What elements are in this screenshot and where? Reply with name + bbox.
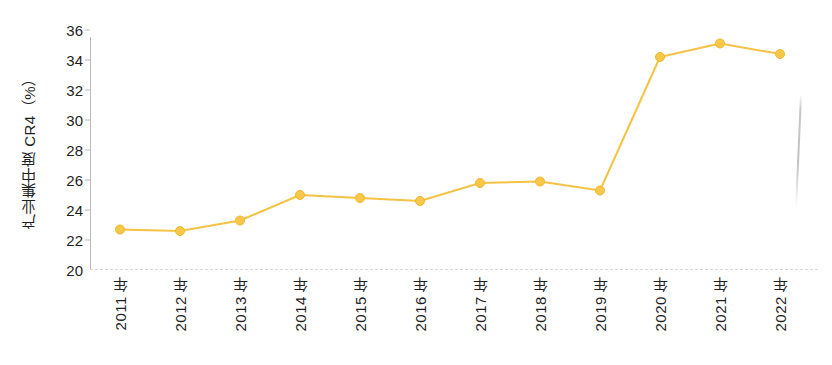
data-point-marker: 2019 年: 25.3 <box>596 186 605 195</box>
data-point-marker: 2017 年: 25.8 <box>476 179 485 188</box>
y-axis-label: 产业集中度 CR4（%） <box>16 50 42 250</box>
plot-area: 202224262830323436 2011 年: 22.72012 年: 2… <box>90 30 810 270</box>
y-tick-label: 34 <box>66 52 83 69</box>
y-tick-label: 26 <box>66 172 83 189</box>
y-tick-label: 22 <box>66 232 83 249</box>
data-point-marker: 2018 年: 25.9 <box>536 177 545 186</box>
data-point-marker: 2021 年: 35.1 <box>716 39 725 48</box>
series-markers: 2011 年: 22.72012 年: 22.62013 年: 23.32014… <box>116 39 785 236</box>
data-point-marker: 2013 年: 23.3 <box>236 216 245 225</box>
x-tick-label: 2022 年 <box>769 276 791 360</box>
data-point-marker: 2014 年: 25 <box>296 191 305 200</box>
x-tick-label: 2011 年 <box>109 276 131 360</box>
x-tick-label: 2014 年 <box>289 276 311 360</box>
x-tick-label: 2013 年 <box>229 276 251 360</box>
x-tick-label: 2015 年 <box>349 276 371 360</box>
y-tick-label: 36 <box>66 22 83 39</box>
data-point-marker: 2015 年: 24.8 <box>356 194 365 203</box>
y-tick-label: 28 <box>66 142 83 159</box>
x-tick-label: 2017 年 <box>469 276 491 360</box>
y-tick-label: 24 <box>66 202 83 219</box>
data-point-marker: 2016 年: 24.6 <box>416 197 425 206</box>
y-tick-label: 30 <box>66 112 83 129</box>
data-point-marker: 2022 年: 34.4 <box>776 50 785 59</box>
x-tick-label: 2012 年 <box>169 276 191 360</box>
x-tick-label: 2016 年 <box>409 276 431 360</box>
data-point-marker: 2012 年: 22.6 <box>176 227 185 236</box>
x-tick-label: 2020 年 <box>649 276 671 360</box>
y-tick-label: 32 <box>66 82 83 99</box>
series-line-path <box>120 44 780 232</box>
x-tick-label: 2019 年 <box>589 276 611 360</box>
x-tick-label: 2021 年 <box>709 276 731 360</box>
cut-off-title-remnant <box>60 0 480 2</box>
line-series-cr4: 2011 年: 22.72012 年: 22.62013 年: 23.32014… <box>90 30 810 270</box>
data-point-marker: 2020 年: 34.2 <box>656 53 665 62</box>
x-tick-label: 2018 年 <box>529 276 551 360</box>
chart-figure: 产业集中度 CR4（%） 202224262830323436 2011 年: … <box>0 0 832 365</box>
data-point-marker: 2011 年: 22.7 <box>116 225 125 234</box>
x-axis-labels: 2011 年2012 年2013 年2014 年2015 年2016 年2017… <box>90 276 810 361</box>
y-tick-label: 20 <box>66 262 83 279</box>
